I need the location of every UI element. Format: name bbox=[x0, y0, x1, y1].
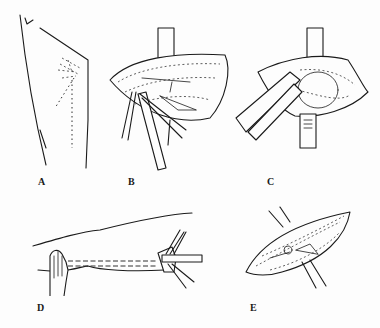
panel-c-drawing bbox=[236, 28, 368, 148]
panel-label-b: B bbox=[128, 176, 135, 187]
figure-drawing bbox=[0, 0, 380, 328]
surgical-figure: A B C D E bbox=[0, 0, 380, 328]
panel-a-drawing bbox=[20, 15, 88, 168]
panel-e-drawing bbox=[246, 207, 350, 288]
panel-label-d: D bbox=[37, 302, 44, 313]
panel-label-e: E bbox=[250, 302, 257, 313]
panel-b-drawing bbox=[110, 28, 228, 170]
panel-label-a: A bbox=[38, 176, 45, 187]
panel-d-drawing bbox=[33, 213, 202, 296]
panel-label-c: C bbox=[267, 176, 274, 187]
